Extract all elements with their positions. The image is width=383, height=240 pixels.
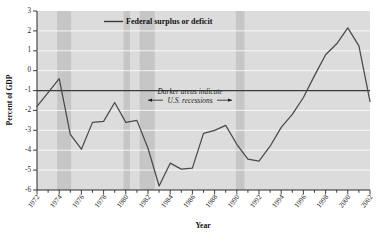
y-tick-label: 2 (27, 27, 31, 35)
y-tick-label: -1 (25, 86, 31, 94)
x-tick-label: 1988 (204, 193, 219, 210)
y-tick-label: -4 (25, 146, 31, 154)
x-axis-title: Year (195, 221, 211, 230)
y-tick-labels-group: 3 2 1 0 -1 -2 -3 -4 -5 -6 (25, 7, 31, 194)
x-tick-label: 1984 (160, 193, 175, 210)
y-tick-label: -2 (25, 106, 31, 114)
x-tick-label: 1990 (226, 193, 241, 210)
x-tick-label: 1974 (49, 193, 64, 210)
annotation-line-2: U.S. recessions (167, 96, 212, 105)
x-tick-label: 1980 (115, 193, 130, 210)
y-axis-title: Percent of GDP (5, 74, 14, 125)
x-tick-label: 1978 (93, 193, 108, 210)
y-ticks-group (33, 11, 37, 190)
recession-band (236, 11, 245, 190)
x-tick-label: 1986 (182, 193, 197, 210)
x-tick-label: 2002 (359, 193, 374, 210)
chart-page: 3 2 1 0 -1 -2 -3 -4 -5 -6 (0, 0, 383, 240)
x-tick-label: 1976 (71, 193, 86, 210)
x-tick-label: 1972 (26, 193, 41, 210)
y-tick-label: -6 (25, 186, 31, 194)
x-tick-labels-group: 1972 1974 1976 1978 1980 1982 1984 1986 … (26, 193, 374, 210)
annotation-line-1: Darker areas indicate (157, 87, 224, 96)
y-tick-label: 1 (27, 46, 31, 54)
y-tick-label: -3 (25, 126, 31, 134)
x-tick-label: 1982 (137, 193, 152, 210)
legend-label: Federal surplus or deficit (126, 17, 213, 26)
y-tick-label: 3 (27, 7, 31, 15)
x-ticks-group (37, 190, 370, 195)
x-tick-label: 1994 (271, 193, 286, 210)
x-tick-label: 1998 (315, 193, 330, 210)
x-tick-label: 2000 (337, 193, 352, 210)
federal-surplus-deficit-line-chart: 3 2 1 0 -1 -2 -3 -4 -5 -6 (0, 0, 383, 240)
x-tick-label: 1996 (293, 193, 308, 210)
figure-container: 3 2 1 0 -1 -2 -3 -4 -5 -6 (0, 0, 383, 240)
x-tick-label: 1992 (248, 193, 263, 210)
recession-band (124, 11, 131, 190)
y-tick-label: 0 (27, 66, 31, 74)
y-tick-label: -5 (25, 166, 31, 174)
